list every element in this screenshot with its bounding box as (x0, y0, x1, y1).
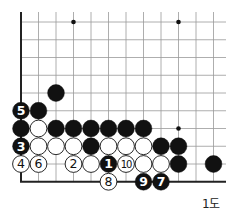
move-number: 10 (121, 159, 132, 170)
white-stone (30, 120, 47, 137)
black-stone (100, 120, 117, 137)
black-stone: 5 (13, 102, 30, 119)
move-number: 6 (35, 156, 43, 171)
white-stone (48, 138, 65, 155)
black-stone (30, 102, 47, 119)
black-stone: 9 (135, 173, 152, 190)
black-stone (205, 156, 222, 173)
black-stone (118, 120, 135, 137)
black-stone (65, 120, 82, 137)
white-stone (118, 138, 135, 155)
black-stone (170, 138, 187, 155)
black-stone: 1 (100, 156, 117, 173)
move-number: 3 (17, 139, 26, 154)
black-stone (135, 120, 152, 137)
black-stone (13, 120, 30, 137)
white-stone: 2 (65, 156, 82, 173)
black-stone (170, 156, 187, 173)
star-point (176, 126, 181, 131)
black-stone (153, 138, 170, 155)
move-number: 8 (105, 174, 113, 189)
move-number: 7 (157, 174, 166, 189)
white-stone: 8 (100, 173, 117, 190)
white-stone: 6 (30, 156, 47, 173)
white-stone: 4 (13, 156, 30, 173)
black-stone: 3 (13, 138, 30, 155)
white-stone (65, 138, 82, 155)
star-point (176, 20, 181, 25)
white-stone: 10 (118, 156, 135, 173)
black-stone (48, 120, 65, 137)
black-stone (83, 120, 100, 137)
black-stone: 7 (153, 173, 170, 190)
move-number: 4 (17, 156, 25, 171)
white-stone (30, 138, 47, 155)
white-stone (153, 156, 170, 173)
move-number: 9 (139, 174, 148, 189)
move-number: 5 (17, 103, 26, 118)
black-stone (83, 138, 100, 155)
diagram-caption: 1도 (202, 194, 219, 211)
go-board-diagram: 53462110897 (0, 0, 240, 214)
move-number: 2 (70, 156, 78, 171)
stones: 53462110897 (13, 85, 222, 191)
star-point (71, 20, 76, 25)
white-stone (83, 156, 100, 173)
white-stone (135, 138, 152, 155)
move-number: 1 (104, 156, 113, 171)
white-stone (100, 138, 117, 155)
white-stone (135, 156, 152, 173)
black-stone (48, 85, 65, 102)
